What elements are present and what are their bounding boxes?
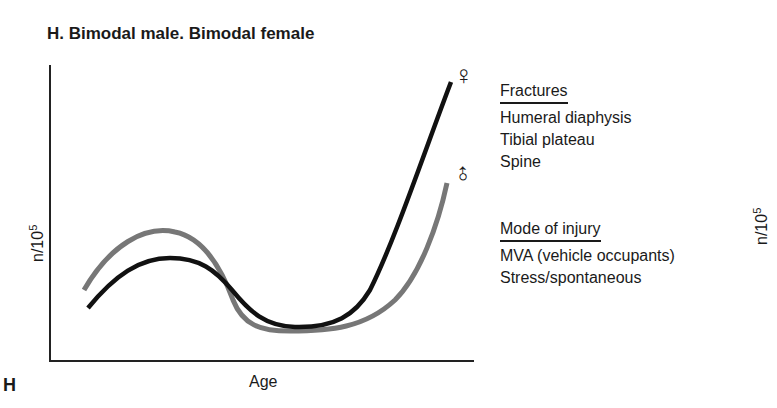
panel-letter: H [3, 375, 16, 396]
female-curve [88, 82, 451, 327]
x-axis-label: Age [249, 373, 277, 391]
female-symbol-icon: ♀ [454, 62, 474, 88]
mode-item: Stress/spontaneous [500, 267, 675, 289]
fracture-item: Humeral diaphysis [500, 107, 632, 129]
right-panel-y-axis-label: n/105 [751, 208, 771, 245]
right-y-label-base: n/10 [753, 214, 770, 245]
right-y-label-exponent: 5 [751, 208, 763, 214]
fractures-heading: Fractures [500, 81, 568, 104]
male-curve [84, 183, 447, 331]
fracture-item: Spine [500, 151, 632, 173]
mode-item: MVA (vehicle occupants) [500, 245, 675, 267]
fractures-legend: Fractures Humeral diaphysis Tibial plate… [500, 80, 632, 173]
fracture-item: Tibial plateau [500, 129, 632, 151]
plot-area [0, 0, 777, 408]
mode-of-injury-legend: Mode of injury MVA (vehicle occupants) S… [500, 218, 675, 289]
mode-heading: Mode of injury [500, 219, 601, 242]
